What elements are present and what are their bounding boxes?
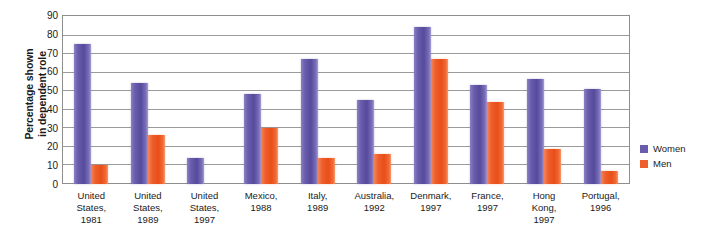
bar-women — [244, 94, 261, 184]
x-axis-category-label: Denmark, 1997 — [403, 190, 460, 226]
y-axis-tick: 70 — [47, 47, 58, 58]
y-axis-tick: 80 — [47, 28, 58, 39]
x-axis-category-label: United States, 1989 — [120, 190, 177, 226]
bar-women — [470, 85, 487, 184]
x-axis-category-label: Mexico, 1988 — [233, 190, 290, 226]
legend: WomenMen — [640, 143, 686, 169]
bar-men — [544, 149, 561, 184]
bar-women — [131, 83, 148, 184]
bar-men — [374, 154, 391, 184]
x-axis-category-label: Hong Kong, 1997 — [516, 190, 573, 226]
x-axis-category-labels: United States, 1981United States, 1989Un… — [63, 190, 629, 226]
bar-women — [414, 27, 431, 184]
bar-women — [357, 100, 374, 184]
bar-group — [516, 16, 573, 184]
legend-label: Women — [653, 143, 686, 154]
women-swatch — [640, 145, 648, 153]
y-axis-tick: 10 — [47, 160, 58, 171]
bar-men — [148, 135, 165, 184]
bar-men — [487, 102, 504, 184]
bar-group — [346, 16, 403, 184]
bar-men — [261, 128, 278, 184]
y-axis-tick: 60 — [47, 66, 58, 77]
bar-men — [431, 59, 448, 184]
x-axis-category-label: Italy, 1989 — [289, 190, 346, 226]
bar-group — [289, 16, 346, 184]
bar-group — [63, 16, 120, 184]
bars-layer — [63, 16, 629, 184]
men-swatch — [640, 160, 648, 168]
y-axis-tick: 90 — [47, 10, 58, 21]
bar-women — [187, 158, 204, 184]
bar-group — [403, 16, 460, 184]
y-axis-tick: 20 — [47, 141, 58, 152]
bar-women — [527, 79, 544, 184]
x-axis-category-label: United States, 1981 — [63, 190, 120, 226]
legend-item: Women — [640, 143, 686, 154]
y-axis-tick: 40 — [47, 103, 58, 114]
bar-men — [318, 158, 335, 184]
y-axis-tick-labels: 9080706050403020100 — [30, 15, 58, 184]
x-axis-category-label: United States, 1997 — [176, 190, 233, 226]
bar-women — [584, 89, 601, 184]
y-axis-tick: 30 — [47, 122, 58, 133]
bar-group — [120, 16, 177, 184]
y-axis-tick: 0 — [52, 179, 58, 190]
bar-chart: Percentage shown in dependent role 90807… — [0, 0, 702, 243]
x-axis-category-label: France, 1997 — [459, 190, 516, 226]
legend-item: Men — [640, 158, 686, 169]
bar-women — [301, 59, 318, 184]
bar-men — [91, 165, 108, 184]
bar-group — [572, 16, 629, 184]
x-axis-category-label: Australia, 1992 — [346, 190, 403, 226]
bar-women — [74, 44, 91, 184]
bar-group — [459, 16, 516, 184]
bar-men — [601, 171, 618, 184]
y-axis-tick: 50 — [47, 85, 58, 96]
bar-group — [176, 16, 233, 184]
legend-label: Men — [653, 158, 671, 169]
x-axis-category-label: Portugal, 1996 — [572, 190, 629, 226]
bar-group — [233, 16, 290, 184]
